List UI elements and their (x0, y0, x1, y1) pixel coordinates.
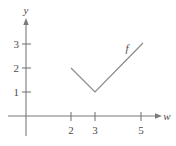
y-tick-label-3: 3 (14, 38, 20, 50)
x-tick-label-2: 2 (68, 124, 74, 136)
x-tick-label-3: 3 (92, 124, 98, 136)
x-axis-arrow-icon (155, 113, 162, 118)
curve-label-f: f (125, 42, 130, 54)
x-tick-label-5: 5 (138, 124, 144, 136)
graph-figure: 3 2 1 2 3 5 y w f (0, 0, 176, 146)
y-tick-label-1: 1 (14, 86, 20, 98)
function-curve-f (71, 43, 143, 92)
x-axis-label: w (163, 110, 171, 122)
y-axis-label: y (23, 4, 29, 16)
y-axis-arrow-icon (23, 18, 28, 25)
y-tick-label-2: 2 (14, 62, 20, 74)
plot-canvas: 3 2 1 2 3 5 y w f (0, 0, 176, 146)
